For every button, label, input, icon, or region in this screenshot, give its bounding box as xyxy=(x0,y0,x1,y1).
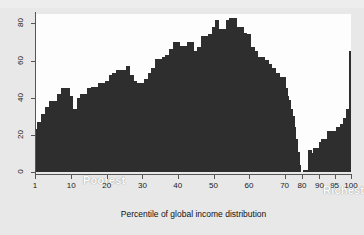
histogram-bars xyxy=(35,14,351,172)
x-tick-mark xyxy=(351,175,352,179)
x-tick-label: 20 xyxy=(96,181,118,190)
y-tick-mark xyxy=(31,98,35,99)
y-tick-label: 40 xyxy=(16,89,25,105)
y-tick-label: 0 xyxy=(16,164,25,180)
plot-area: Poorest Richest xyxy=(35,14,351,172)
x-axis-title: Percentile of global income distribution xyxy=(35,209,352,219)
x-tick-label: 100 xyxy=(340,181,362,190)
x-tick-mark xyxy=(335,175,336,179)
x-tick-mark xyxy=(71,175,72,179)
x-tick-label: 10 xyxy=(60,181,82,190)
histogram-bar xyxy=(299,165,301,172)
y-tick-label: 60 xyxy=(16,52,25,68)
y-tick-mark xyxy=(31,61,35,62)
x-tick-mark xyxy=(285,175,286,179)
x-tick-mark xyxy=(178,175,179,179)
x-tick-label: 50 xyxy=(203,181,225,190)
x-axis-line xyxy=(35,174,352,175)
y-tick-mark xyxy=(31,23,35,24)
x-tick-mark xyxy=(35,175,36,179)
x-tick-mark xyxy=(302,175,303,179)
histogram-bar xyxy=(349,51,351,172)
y-tick-label: 80 xyxy=(16,15,25,31)
y-tick-mark xyxy=(31,135,35,136)
x-tick-mark xyxy=(214,175,215,179)
y-tick-label: 20 xyxy=(16,126,25,142)
x-tick-label: 60 xyxy=(238,181,260,190)
income-distribution-histogram-figure: Poorest Richest 020406080 11020304050607… xyxy=(0,0,364,235)
x-tick-mark xyxy=(319,175,320,179)
y-tick-mark xyxy=(31,172,35,173)
x-tick-label: 30 xyxy=(131,181,153,190)
y-axis-line xyxy=(35,12,36,174)
x-tick-mark xyxy=(249,175,250,179)
x-tick-mark xyxy=(107,175,108,179)
x-tick-label: 40 xyxy=(167,181,189,190)
x-tick-mark xyxy=(142,175,143,179)
x-tick-label: 1 xyxy=(24,181,46,190)
